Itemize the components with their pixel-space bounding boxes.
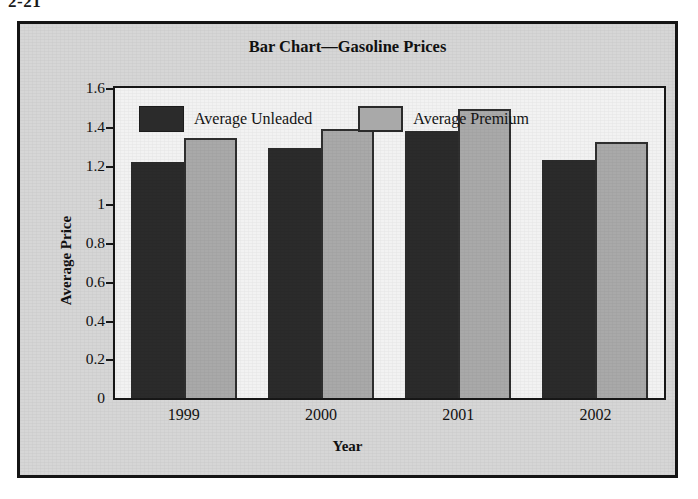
x-tick-label-2002: 2002	[535, 406, 655, 424]
x-axis-title: Year	[20, 438, 675, 455]
y-tick-label: 1.2	[57, 157, 105, 175]
y-tick-mark	[106, 166, 115, 168]
y-tick-mark	[106, 321, 115, 323]
bar-2002-unleaded	[542, 160, 595, 398]
figure-page: 2-21 Bar Chart—Gasoline Prices Average P…	[0, 0, 698, 499]
y-tick-mark	[106, 204, 115, 206]
x-tick-label-2001: 2001	[398, 406, 518, 424]
y-tick-label: 0	[57, 389, 105, 407]
legend-label-unleaded: Average Unleaded	[194, 110, 312, 128]
legend-item-premium: Average Premium	[358, 106, 529, 132]
legend-swatch-unleaded	[139, 106, 184, 132]
figure-frame: Bar Chart—Gasoline Prices Average Price …	[17, 21, 678, 478]
y-tick-label: 0.4	[57, 312, 105, 330]
bar-1999-unleaded	[131, 162, 184, 398]
y-tick-mark	[106, 127, 115, 129]
plot-inner: Average Unleaded Average Premium 00.20.4…	[115, 88, 664, 398]
bar-2001-unleaded	[405, 131, 458, 398]
bar-2000-premium	[321, 129, 374, 398]
bar-1999-premium	[184, 138, 237, 398]
y-tick-mark	[106, 359, 115, 361]
y-tick-label: 1.4	[57, 118, 105, 136]
plot-area: Average Unleaded Average Premium 00.20.4…	[113, 86, 666, 400]
bar-2000-unleaded	[268, 148, 321, 398]
bar-2002-premium	[595, 142, 648, 398]
y-tick-mark	[106, 282, 115, 284]
legend-item-unleaded: Average Unleaded	[139, 106, 312, 132]
y-tick-label: 0.2	[57, 350, 105, 368]
y-tick-label: 0.6	[57, 273, 105, 291]
y-tick-label: 1	[57, 195, 105, 213]
x-tick-label-1999: 1999	[124, 406, 244, 424]
y-tick-label: 1.6	[57, 79, 105, 97]
legend-label-premium: Average Premium	[413, 110, 529, 128]
y-tick-mark	[106, 88, 115, 90]
legend-swatch-premium	[358, 106, 403, 132]
x-tick-label-2000: 2000	[261, 406, 381, 424]
y-tick-label: 0.8	[57, 234, 105, 252]
chart-legend: Average Unleaded Average Premium	[139, 106, 529, 132]
y-tick-mark	[106, 243, 115, 245]
bar-2001-premium	[458, 109, 511, 398]
page-number: 2-21	[8, 0, 41, 12]
chart-title: Bar Chart—Gasoline Prices	[20, 37, 675, 57]
